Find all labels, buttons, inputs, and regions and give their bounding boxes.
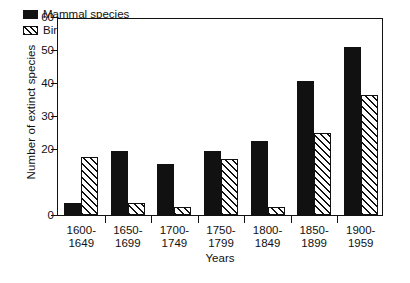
- x-tick-label-line: 1850-: [299, 224, 328, 237]
- bar-mammal-species: [204, 151, 221, 215]
- x-tick-mark: [105, 215, 106, 223]
- x-tick-label-line: 1600-: [67, 224, 96, 237]
- x-tick-label-line: 1699: [113, 237, 142, 250]
- bar-group: [244, 19, 291, 215]
- x-axis-title: Years: [57, 252, 383, 264]
- bar-birds: [174, 207, 191, 215]
- x-tick-label-line: 1959: [346, 237, 375, 250]
- bar-group: [58, 19, 105, 215]
- bar-birds: [361, 95, 378, 215]
- y-tick-label: 50: [41, 44, 54, 56]
- plot-inner: 020304050601600-16491650-16991700-174917…: [58, 19, 382, 215]
- x-tick-label: 1750-1799: [206, 224, 235, 249]
- bar-mammal-species: [344, 47, 361, 215]
- legend-swatch-diagonal-hatch-icon: [23, 26, 38, 35]
- bar-group: [291, 19, 338, 215]
- y-tick-label: 40: [41, 77, 54, 89]
- bar-birds: [314, 133, 331, 216]
- bar-birds: [268, 207, 285, 215]
- legend-swatch-solid-black-icon: [23, 10, 38, 19]
- bar-mammal-species: [157, 164, 174, 215]
- x-tick-label: 1850-1899: [299, 224, 328, 249]
- x-tick-mark: [151, 215, 152, 223]
- y-tick-label: 30: [41, 110, 54, 122]
- bar-mammal-species: [64, 203, 81, 215]
- y-tick-label: 0: [48, 209, 54, 221]
- x-tick-label-line: 1700-: [160, 224, 189, 237]
- bar-group: [105, 19, 152, 215]
- bar-mammal-species: [111, 151, 128, 215]
- bar-mammal-species: [297, 81, 314, 215]
- x-tick-mark: [337, 215, 338, 223]
- x-tick-label: 1700-1749: [160, 224, 189, 249]
- y-tick-label: 60: [41, 11, 54, 23]
- y-axis-title: Number of extinct species: [25, 12, 37, 212]
- x-tick-mark: [291, 215, 292, 223]
- bar-birds: [221, 159, 238, 215]
- x-tick-mark: [244, 215, 245, 223]
- x-tick-label: 1650-1699: [113, 224, 142, 249]
- x-tick-label-line: 1749: [160, 237, 189, 250]
- bar-group: [337, 19, 384, 215]
- x-tick-label-line: 1650-: [113, 224, 142, 237]
- plot-area: 020304050601600-16491650-16991700-174917…: [57, 18, 383, 216]
- x-tick-label-line: 1649: [67, 237, 96, 250]
- x-tick-label-line: 1799: [206, 237, 235, 250]
- bar-birds: [128, 203, 145, 215]
- bar-group: [198, 19, 245, 215]
- bar-chart-figure: Number of extinct species Mammal species…: [0, 0, 410, 283]
- x-tick-label: 1600-1649: [67, 224, 96, 249]
- x-tick-label: 1900-1959: [346, 224, 375, 249]
- x-tick-label-line: 1849: [253, 237, 282, 250]
- x-tick-mark: [198, 215, 199, 223]
- x-tick-label: 1800-1849: [253, 224, 282, 249]
- x-tick-label-line: 1750-: [206, 224, 235, 237]
- x-tick-label-line: 1900-: [346, 224, 375, 237]
- x-tick-label-line: 1800-: [253, 224, 282, 237]
- x-tick-label-line: 1899: [299, 237, 328, 250]
- bar-mammal-species: [251, 141, 268, 215]
- y-tick-label: 20: [41, 143, 54, 155]
- bar-birds: [81, 157, 98, 215]
- bar-group: [151, 19, 198, 215]
